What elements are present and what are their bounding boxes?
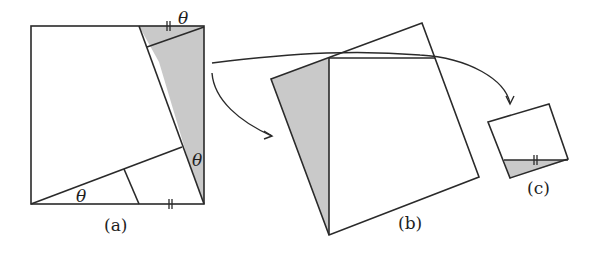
- theta-label-right: θ: [192, 150, 202, 170]
- arrow-a-to-c: [212, 52, 510, 103]
- figure-b-shaded-triangle: [271, 58, 329, 235]
- figure-a: θ θ θ (a): [31, 8, 204, 235]
- figure-a-bottom-diagonal: [31, 147, 182, 204]
- theta-label-bottom: θ: [76, 186, 86, 206]
- arrow-a-to-b: [212, 73, 272, 136]
- figure-a-label: (a): [104, 215, 127, 235]
- figure-c: (c): [488, 104, 568, 198]
- arrows: [212, 52, 514, 139]
- theta-label-top: θ: [178, 8, 188, 28]
- figure-a-perpendicular: [124, 169, 139, 204]
- arrow-a-to-c-head: [506, 96, 514, 104]
- figure-c-label: (c): [527, 178, 550, 198]
- figure-b-label: (b): [398, 213, 422, 233]
- arrow-a-to-b-head: [264, 131, 272, 139]
- dissection-diagram: θ θ θ (a) (b) (c): [0, 0, 596, 255]
